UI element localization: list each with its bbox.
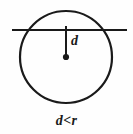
center-point-dot [63,54,69,60]
figure-caption: d<r [0,114,133,128]
geometry-figure: d d<r [0,0,133,134]
distance-label: d [71,34,78,48]
